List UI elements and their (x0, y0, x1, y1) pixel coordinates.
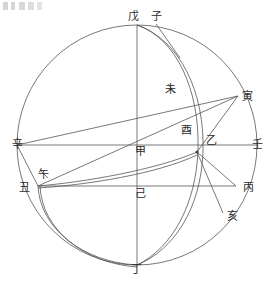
label-you: 酉 (181, 124, 192, 137)
label-hai: 亥 (227, 209, 238, 223)
label-bing: 丙 (243, 181, 254, 194)
arc-chou-to-yi-lower (38, 155, 197, 188)
label-chou: 丑 (19, 181, 30, 194)
label-zi: 子 (151, 10, 162, 23)
label-ji: 己 (135, 187, 146, 200)
label-ren: 壬 (252, 138, 263, 151)
label-jia: 甲 (135, 145, 146, 158)
label-yin: 寅 (242, 89, 253, 103)
diagram-canvas: 戊 子 未 寅 酉 乙 辛 壬 甲 午 丑 己 丙 亥 丁 (0, 0, 274, 282)
label-wu-left: 午 (38, 168, 49, 181)
diagram-figure: 戊 子 未 寅 酉 乙 辛 壬 甲 午 丑 己 丙 亥 丁 (0, 0, 274, 282)
label-ding: 丁 (131, 263, 142, 276)
arc-chou-to-yi-upper (38, 152, 197, 186)
radial-yi-hai (197, 152, 223, 213)
label-yi: 乙 (206, 134, 217, 147)
connector-xin-chou (17, 145, 38, 186)
label-wei: 未 (165, 83, 176, 96)
label-xin: 辛 (12, 137, 23, 151)
node-point-yi (195, 150, 198, 153)
label-wu-top: 戊 (128, 10, 139, 23)
